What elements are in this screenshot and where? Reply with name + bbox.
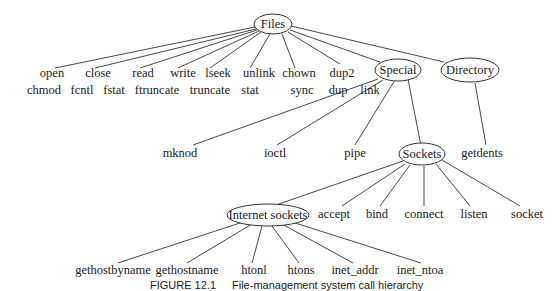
leaf-listen: listen	[460, 207, 488, 221]
leaf-htons: htons	[287, 263, 314, 277]
leaf-gethostname: gethostname	[155, 263, 219, 277]
leaf-open: open	[40, 66, 65, 80]
node-internet-sockets-label: Internet sockets	[229, 208, 308, 222]
leaf-getdents: getdents	[461, 146, 503, 160]
leaf-write: write	[170, 66, 196, 80]
special-leaves: mknod ioctl pipe	[163, 146, 367, 160]
leaf-link: link	[360, 83, 380, 97]
leaf-ioctl: ioctl	[264, 146, 287, 160]
leaf-bind: bind	[366, 207, 389, 221]
leaf-dup2: dup2	[330, 66, 355, 80]
leaf-sync: sync	[291, 83, 314, 97]
sockets-leaves: accept bind connect listen socket	[318, 207, 543, 221]
caption-text: File-management system call hierarchy	[232, 279, 424, 291]
leaf-fcntl: fcntl	[71, 83, 94, 97]
leaf-read: read	[132, 66, 154, 80]
node-directory: Directory	[441, 58, 499, 82]
leaf-unlink: unlink	[243, 66, 276, 80]
node-special-label: Special	[380, 63, 417, 77]
leaf-lseek: lseek	[205, 66, 231, 80]
leaf-chmod: chmod	[27, 83, 62, 97]
node-sockets: Sockets	[399, 143, 445, 165]
node-directory-label: Directory	[446, 63, 495, 77]
node-internet-sockets: Internet sockets	[227, 204, 309, 226]
internet-leaves: gethostbyname gethostname htonl htons in…	[75, 263, 444, 277]
leaf-inet-ntoa: inet_ntoa	[397, 263, 444, 277]
leaf-gethostbyname: gethostbyname	[75, 263, 151, 277]
files-leaves-row1: open close read write lseek unlink chown…	[40, 66, 355, 80]
leaf-pipe: pipe	[344, 146, 366, 160]
node-files-label: Files	[261, 17, 285, 31]
files-leaves-row2: chmod fcntl fstat ftruncate truncate sta…	[27, 83, 380, 97]
leaf-fstat: fstat	[103, 83, 125, 97]
leaf-dup: dup	[329, 83, 348, 97]
node-files: Files	[254, 14, 292, 34]
leaf-mknod: mknod	[163, 146, 198, 160]
caption-label: FIGURE 12.1	[150, 279, 216, 291]
leaf-inet-addr: inet_addr	[331, 263, 379, 277]
leaf-truncate: truncate	[190, 83, 231, 97]
node-special: Special	[375, 59, 421, 81]
leaf-accept: accept	[318, 207, 350, 221]
leaf-close: close	[85, 66, 111, 80]
node-sockets-label: Sockets	[403, 147, 442, 161]
call-hierarchy-diagram: Files Special Directory Sockets Internet…	[0, 0, 560, 291]
leaf-ftruncate: ftruncate	[135, 83, 180, 97]
leaf-stat: stat	[241, 83, 259, 97]
leaf-htonl: htonl	[241, 263, 267, 277]
leaf-socket: socket	[511, 207, 543, 221]
leaf-connect: connect	[405, 207, 444, 221]
figure-caption: FIGURE 12.1 File-management system call …	[150, 279, 424, 291]
leaf-chown: chown	[282, 66, 316, 80]
